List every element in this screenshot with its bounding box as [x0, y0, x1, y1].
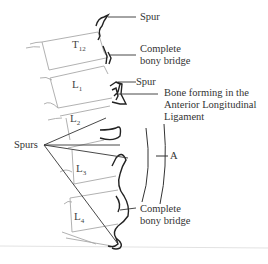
label-spur-mid: Spur	[136, 76, 156, 87]
label-bridge-bottom-line2: bony bridge	[140, 215, 190, 226]
vertebra-label-t12: T12	[72, 38, 86, 53]
label-all-line2: Anterior Longitudinal	[164, 99, 256, 110]
label-bridge-bottom-line1: Complete	[140, 203, 181, 214]
vertebra-label-l2: L2	[70, 112, 80, 127]
vertebra-label-l3: L3	[76, 162, 86, 177]
anterior-outline	[96, 15, 129, 249]
bracket-a-lines	[142, 124, 168, 204]
baseline-divider	[0, 246, 268, 248]
label-spur-top: Spur	[140, 11, 160, 22]
label-bridge-top-line2: bony bridge	[140, 55, 190, 66]
label-bridge-top-line1: Complete	[140, 43, 181, 54]
label-all-line3: Ligament	[164, 111, 204, 122]
label-spurs-left: Spurs	[14, 139, 38, 150]
spine-diagram: T12 L1 L2 L3 L4 Spur Complete bony bridg…	[0, 0, 268, 264]
vertebra-label-l4: L4	[74, 210, 84, 225]
label-bracket-a: A	[170, 150, 178, 161]
label-all-line1: Bone forming in the	[164, 87, 249, 98]
vertebra-label-l1: L1	[72, 78, 82, 93]
spine-drawing	[0, 0, 268, 264]
